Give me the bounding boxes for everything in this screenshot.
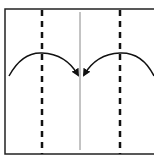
fold-diagram [0, 0, 154, 162]
left-fold-arrow-icon [9, 53, 78, 76]
